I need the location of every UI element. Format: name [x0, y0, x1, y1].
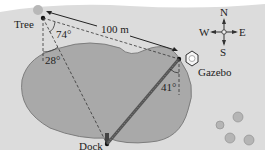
angle-label-74: 74°	[56, 28, 71, 40]
bottom-margin	[0, 150, 265, 164]
gazebo-icon	[186, 51, 198, 66]
compass-south: S	[220, 46, 226, 58]
compass-east: E	[239, 26, 246, 38]
tree-label: Tree	[14, 18, 34, 30]
angle-label-28: 28°	[45, 54, 60, 66]
lake-diagram: Tree Gazebo Dock 100 m 74° 28° 41° N S W…	[0, 0, 265, 164]
distance-label: 100 m	[101, 23, 129, 35]
compass-north: N	[220, 6, 228, 18]
angle-label-41: 41°	[161, 81, 176, 93]
tree-icon	[33, 5, 43, 15]
gazebo-label: Gazebo	[198, 66, 232, 78]
compass-west: W	[199, 26, 210, 38]
